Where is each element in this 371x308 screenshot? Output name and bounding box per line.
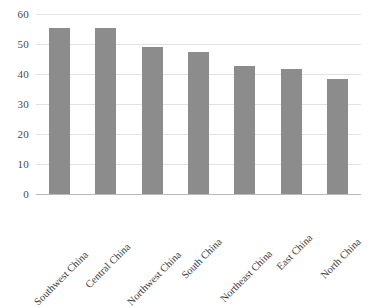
y-tick-label: 20 bbox=[18, 128, 29, 140]
bar bbox=[49, 28, 70, 195]
y-tick-label: 60 bbox=[18, 8, 29, 20]
x-axis-category-labels: Southwest ChinaCentral ChinaNorthwest Ch… bbox=[36, 195, 361, 270]
y-tick-label: 10 bbox=[18, 158, 29, 170]
bar bbox=[142, 47, 163, 194]
bar bbox=[327, 79, 348, 194]
x-category-label: Northwest China bbox=[125, 249, 183, 307]
bar bbox=[234, 66, 255, 194]
y-tick-label: 30 bbox=[18, 98, 29, 110]
x-category-label: East China bbox=[274, 232, 314, 272]
x-category-label: Southwest China bbox=[32, 249, 90, 307]
bar bbox=[95, 28, 116, 194]
y-axis-tick-labels: 0102030405060 bbox=[0, 0, 34, 208]
bars-layer bbox=[36, 14, 361, 194]
x-category-label: South China bbox=[179, 236, 224, 281]
y-tick-label: 40 bbox=[18, 68, 29, 80]
plot-area bbox=[36, 14, 361, 194]
y-tick-label: 0 bbox=[23, 188, 29, 200]
bar bbox=[188, 52, 209, 194]
x-category-label: North China bbox=[318, 236, 363, 281]
x-category-label: Northeast China bbox=[218, 248, 274, 304]
bar bbox=[281, 69, 302, 194]
y-tick-label: 50 bbox=[18, 38, 29, 50]
x-category-label: Central China bbox=[83, 241, 132, 290]
